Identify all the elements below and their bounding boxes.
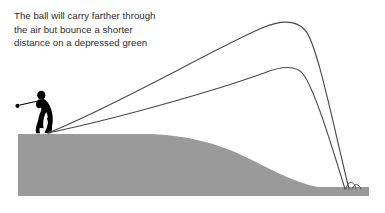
terrain-group xyxy=(18,134,369,196)
golf-trajectory-figure: The ball will carry farther through the … xyxy=(0,0,385,213)
golfer-head xyxy=(37,91,45,100)
caption-text: The ball will carry farther through the … xyxy=(14,9,244,50)
golfer-silhouette xyxy=(15,91,52,133)
terrain-cross-section xyxy=(18,134,369,196)
golf-club-icon xyxy=(20,101,38,105)
club-head-icon xyxy=(15,104,19,108)
